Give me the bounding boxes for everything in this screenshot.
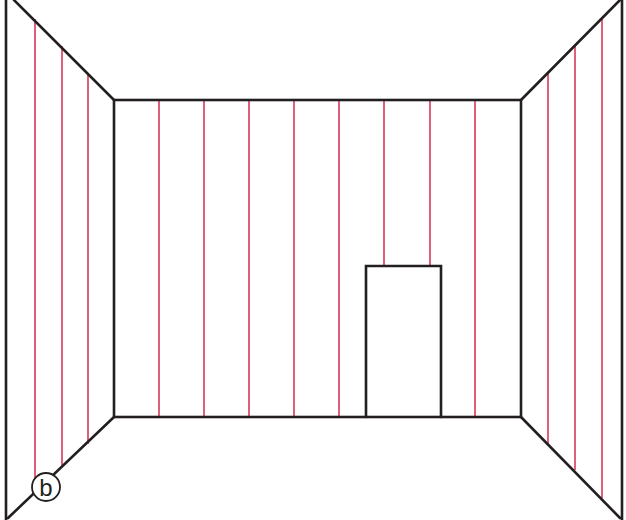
back-wall: [114, 100, 521, 417]
door: [366, 266, 441, 417]
label-text: b: [39, 474, 52, 501]
floor-right-diagonal: [521, 417, 620, 518]
ceiling-right-diagonal: [521, 0, 620, 100]
ceiling-left-diagonal: [14, 0, 114, 100]
figure-label: b: [32, 473, 60, 501]
room-perspective-diagram: b: [0, 0, 626, 520]
left-wall-stripes: [35, 19, 88, 484]
back-wall-stripes: [159, 100, 475, 417]
right-wall-stripes: [548, 19, 602, 498]
